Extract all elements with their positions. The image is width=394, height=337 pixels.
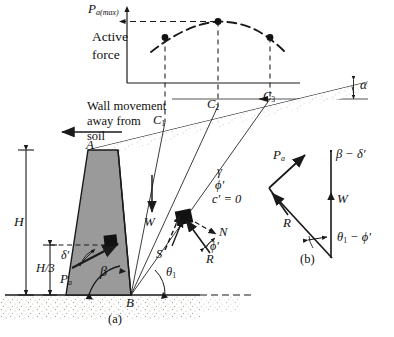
normal-label-N: N — [219, 226, 227, 239]
graph-y-axis-arrow — [124, 6, 129, 12]
wall-friction-label: δ′ — [61, 249, 69, 261]
shear-label-S: S — [156, 248, 162, 261]
soil-friction-angle-label: ϕ′ — [215, 179, 224, 192]
peak-level-arrow — [119, 19, 126, 24]
force-polygon — [269, 150, 335, 258]
alpha-label: α — [360, 78, 367, 91]
active-thrust-label-Pa: Pa — [60, 272, 72, 287]
reaction-label-R: R — [206, 253, 214, 266]
wall-movement-note-line2: away from — [87, 115, 141, 128]
wall-body — [66, 150, 131, 295]
wall-top-label-A: A — [86, 138, 94, 151]
label-c2: C2 — [207, 98, 219, 111]
label-c3: C3 — [263, 90, 275, 103]
theta1-angle-arc — [155, 270, 165, 295]
wedge-angle-label-theta1: θ1 — [166, 266, 176, 279]
polygon-left-edge — [269, 188, 288, 215]
graph-ylabel-line2: force — [92, 48, 120, 62]
label-c1: C1 — [153, 114, 165, 127]
retaining-wall — [66, 150, 131, 295]
polygon-R-vector — [272, 193, 332, 258]
wall-friction-block — [104, 234, 118, 246]
weight-label-W: W — [144, 215, 155, 228]
caption-b: (b) — [300, 253, 315, 266]
polygon-W-arrowhead — [327, 192, 334, 200]
graph-pa-max-label: Pa(max) — [88, 2, 119, 17]
wall-heel-label-B: B — [126, 296, 134, 309]
graph-ylabel-line1: Active — [92, 30, 128, 44]
polygon-bottom-angle-indicator — [308, 237, 327, 240]
N-normal-arrow — [188, 218, 216, 234]
failure-plane-forces — [165, 208, 216, 253]
failure-plane-block — [175, 208, 194, 225]
ground-stipple — [0, 296, 200, 320]
height-label-H: H — [14, 215, 24, 229]
polygon-bottom-angle-label: θ1 − ϕ′ — [337, 231, 371, 244]
soil-unit-weight-label: γ — [217, 165, 222, 178]
figure-root: Pa(max) Active force α C1 C2 C3 Wall mov… — [0, 0, 394, 337]
wall-batter-label-beta: β — [100, 265, 107, 279]
polygon-top-angle-label: β − δ′ — [336, 148, 365, 161]
height-label-H3: H/3 — [36, 262, 55, 275]
polygon-W-label: W — [337, 192, 348, 205]
caption-a: (a) — [108, 313, 122, 326]
backfill-and-ground — [0, 80, 368, 320]
soil-cohesion-label: c′ = 0 — [212, 193, 241, 206]
polygon-Pa-label: Pa — [273, 148, 285, 163]
polygon-R-label: R — [283, 216, 291, 229]
wall-movement-note-line1: Wall movement — [87, 100, 166, 113]
ground-stipple-right — [200, 296, 240, 312]
friction-angle-label-phi: ϕ′ — [210, 240, 219, 252]
